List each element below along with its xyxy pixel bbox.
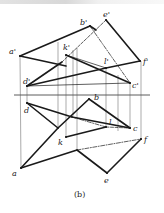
- label-a-prime: a': [9, 48, 16, 56]
- edge-e-top: [77, 150, 107, 173]
- label-c-prime: c': [132, 82, 139, 90]
- edge-kl-front: [66, 55, 106, 68]
- edge-d-c-front: [27, 83, 130, 86]
- label-k-prime: k': [63, 44, 70, 52]
- label-k: k: [58, 139, 63, 147]
- label-b-prime: b': [80, 19, 87, 27]
- label-e: e: [104, 177, 109, 185]
- figure-caption: (b): [74, 190, 85, 199]
- edge-a-b-front: [20, 26, 90, 56]
- edge-k-l-top: [66, 127, 106, 137]
- edge-e-f-front: [106, 20, 140, 61]
- label-e-prime: e': [103, 11, 110, 19]
- edge-d-b-top: [27, 103, 72, 117]
- label-b: b: [94, 94, 99, 102]
- edge-ab-to-b: [90, 26, 96, 30]
- label-l: l: [109, 119, 112, 127]
- front-view: [20, 20, 140, 86]
- edge-d-k-top: [27, 103, 58, 128]
- label-d-prime: d': [23, 78, 30, 86]
- edge-l-f-front: [106, 61, 140, 68]
- label-l-prime: l': [104, 58, 109, 66]
- edge-kc-front: [66, 55, 130, 83]
- label-a: a: [12, 170, 17, 178]
- top-view: [21, 99, 141, 173]
- label-c: c: [133, 125, 137, 133]
- label-d: d: [24, 107, 29, 115]
- label-f-prime: f': [143, 58, 148, 66]
- label-f: f: [144, 136, 147, 144]
